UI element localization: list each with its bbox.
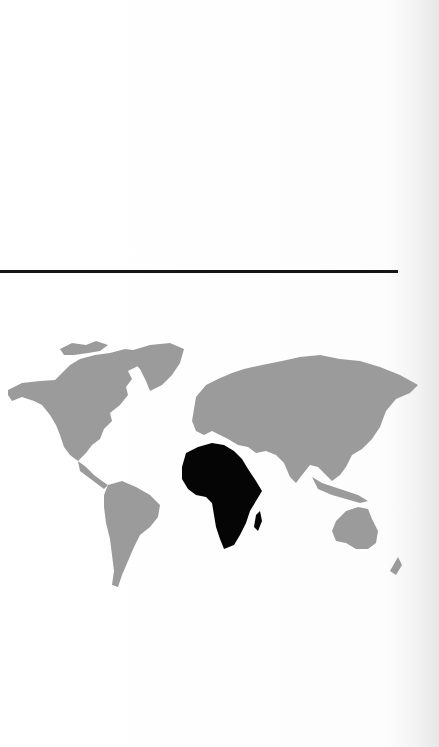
region-new-zealand — [390, 557, 402, 575]
region-africa — [182, 443, 262, 549]
region-greenland — [130, 343, 184, 391]
world-map — [0, 335, 439, 595]
region-australia — [332, 507, 378, 549]
region-arctic-islands — [60, 341, 108, 355]
region-indonesia — [312, 477, 368, 503]
region-north-america — [8, 349, 150, 461]
region-south-america — [104, 481, 160, 587]
region-madagascar — [254, 511, 262, 531]
world-map-svg — [0, 335, 439, 595]
scanned-page — [0, 0, 439, 747]
region-central-america — [78, 461, 108, 489]
horizontal-divider — [0, 270, 398, 273]
